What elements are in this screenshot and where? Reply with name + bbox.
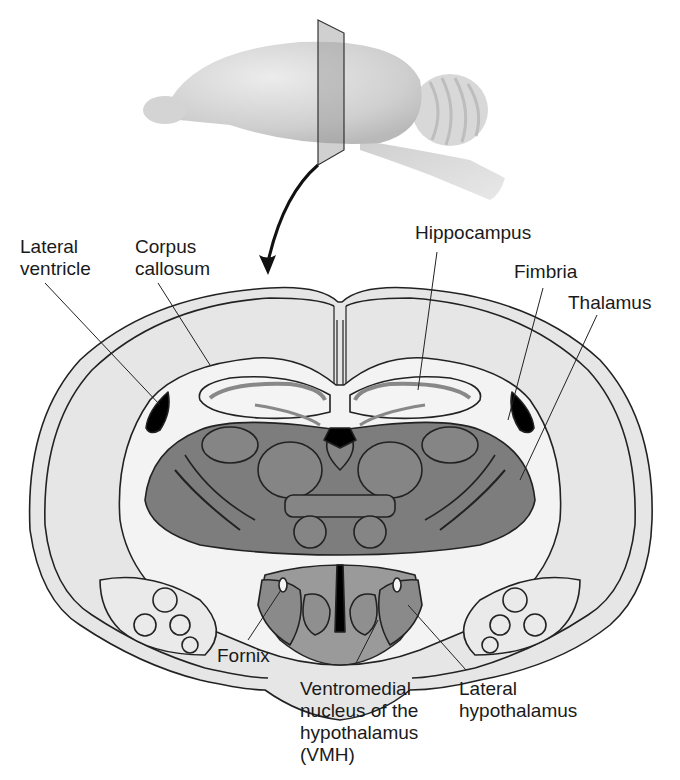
label-lateral-ventricle: Lateral ventricle [20, 236, 91, 280]
olfactory-bulb [143, 96, 187, 124]
label-lateral-hypothalamus: Lateral hypothalamus [459, 678, 577, 722]
coronal-section [30, 288, 653, 720]
label-vmh: Ventromedial nucleus of the hypothalamus… [300, 678, 418, 766]
label-fimbria: Fimbria [514, 261, 577, 283]
cerebrum [147, 42, 422, 144]
label-thalamus: Thalamus [568, 292, 651, 314]
label-fornix: Fornix [217, 645, 270, 667]
third-ventricle-ventral [335, 565, 345, 632]
fornix-right [393, 578, 401, 592]
curved-arrow [268, 165, 318, 262]
label-hippocampus: Hippocampus [415, 222, 531, 244]
fornix-left [279, 578, 287, 592]
brain-section-diagram [0, 0, 680, 780]
arrow-head [259, 255, 276, 275]
cerebellum [412, 74, 488, 146]
label-corpus-callosum: Corpus callosum [135, 236, 210, 280]
section-plane [318, 20, 344, 165]
